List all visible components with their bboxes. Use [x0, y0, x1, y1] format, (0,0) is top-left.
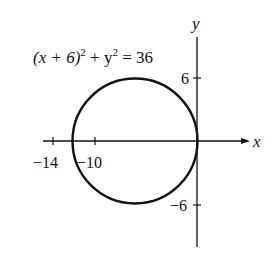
equation-mid: + y — [86, 48, 113, 67]
equation-label: (x + 6)2 + y2 = 36 — [33, 46, 153, 67]
y-tick-label-6: 6 — [181, 70, 189, 87]
x-tick-label-minus10: −10 — [77, 154, 102, 171]
equation-rhs: = 36 — [118, 48, 153, 67]
x-tick-label-minus14: −14 — [33, 154, 58, 171]
x-axis-label: x — [252, 132, 261, 151]
equation-base: (x + 6) — [33, 48, 81, 67]
y-tick-label-minus6: −6 — [170, 197, 187, 214]
x-axis-arrow-icon — [241, 138, 250, 144]
y-axis-label: y — [190, 14, 200, 33]
circle-graph: y x −14 −10 6 −6 (x + 6)2 + y2 = 36 — [0, 0, 275, 261]
